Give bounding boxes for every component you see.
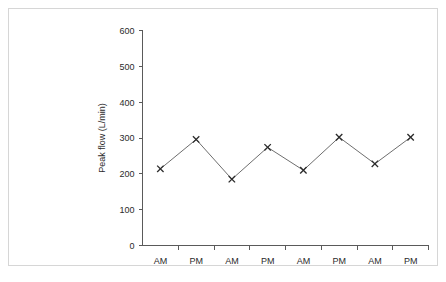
y-axis: 0100200300400500600 (119, 26, 142, 251)
data-point-marker (264, 144, 270, 150)
y-tick-label: 600 (119, 26, 134, 36)
y-tick-label: 0 (129, 241, 134, 251)
x-tick-label: AM (225, 256, 239, 266)
line-chart-plot: 0100200300400500600 AMPMAMPMAMPMAMPM Pea… (0, 0, 446, 282)
data-point-marker (372, 161, 378, 167)
y-axis-title: Peak flow (L/min) (97, 103, 107, 173)
y-tick-label: 400 (119, 98, 134, 108)
x-tick-label: AM (154, 256, 168, 266)
data-point-marker (193, 136, 199, 142)
x-tick-label: PM (261, 256, 275, 266)
x-tick-label: AM (368, 256, 382, 266)
x-tick-label: AM (297, 256, 311, 266)
y-tick-label: 200 (119, 169, 134, 179)
data-point-marker (157, 166, 163, 172)
data-point-marker (336, 134, 342, 140)
chart-root: 0100200300400500600 AMPMAMPMAMPMAMPM Pea… (0, 0, 446, 282)
data-point-marker (229, 176, 235, 182)
x-tick-label: PM (404, 256, 418, 266)
y-tick-label: 500 (119, 62, 134, 72)
x-axis: AMPMAMPMAMPMAMPM (143, 246, 429, 266)
data-series-peak-flow (157, 134, 414, 182)
data-line-peak-flow (160, 137, 410, 179)
data-point-marker (300, 167, 306, 173)
y-tick-label: 100 (119, 205, 134, 215)
x-tick-label: PM (332, 256, 346, 266)
data-point-marker (407, 134, 413, 140)
axis-labels: Peak flow (L/min) (97, 103, 107, 173)
x-tick-label: PM (189, 256, 203, 266)
y-tick-label: 300 (119, 133, 134, 143)
